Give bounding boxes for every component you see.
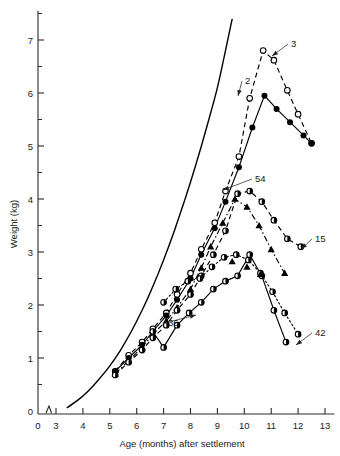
annotation-arrow-54: [223, 186, 229, 190]
data-point-series-3: [271, 57, 277, 63]
chart-canvas: 034567891011121301234567 3254153642 Age …: [0, 0, 340, 456]
y-tick-label: 7: [28, 35, 33, 46]
data-point-series-3: [285, 88, 291, 94]
data-point-series-36: [235, 273, 241, 279]
data-point-series-36: [247, 252, 253, 258]
annotation-arrow-36: [190, 314, 196, 318]
data-point-series-3: [236, 154, 242, 160]
series-line-series-3: [115, 51, 311, 372]
x-tick-label: 5: [107, 420, 112, 431]
series-label-15: 15: [315, 233, 326, 244]
series-line-series-36: [153, 255, 286, 348]
series-line-reference-growth-curve: [67, 19, 232, 408]
data-point-series-2: [300, 132, 306, 138]
x-tick-label: 10: [239, 420, 250, 431]
data-point-series-15: [211, 252, 217, 258]
data-point-series-3: [247, 96, 253, 102]
y-tick-label: 5: [28, 141, 33, 152]
annotation-arrow-42: [296, 340, 302, 345]
data-point-series-42: [173, 286, 179, 292]
y-tick-label: 3: [28, 247, 33, 258]
data-point-series-54: [187, 286, 194, 292]
data-point-series-2: [198, 252, 204, 258]
x-axis-title: Age (months) after settlement: [119, 438, 244, 449]
data-point-series-2: [222, 199, 228, 205]
y-tick-label: 6: [28, 88, 33, 99]
curves-layer: [67, 19, 312, 408]
data-point-series-42: [246, 257, 252, 263]
data-point-series-42: [209, 264, 215, 270]
series-label-2: 2: [245, 75, 250, 86]
data-point-series-3: [260, 48, 266, 54]
series-label-3: 3: [291, 38, 296, 49]
axes-layer: 034567891011121301234567: [28, 11, 335, 431]
data-point-series-36: [271, 308, 277, 314]
data-point-series-2: [249, 124, 255, 130]
data-point-series-42: [295, 331, 301, 337]
data-point-series-54: [255, 222, 262, 228]
x-tick-label: 3: [53, 420, 58, 431]
x-tick-label: 0: [35, 420, 40, 431]
y-tick-label: 2: [28, 300, 33, 311]
data-point-series-15: [126, 359, 132, 365]
data-point-series-15: [112, 372, 118, 378]
data-point-series-42: [197, 276, 203, 282]
data-point-series-3: [174, 292, 180, 298]
data-point-series-15: [247, 188, 253, 194]
x-tick-label: 13: [320, 420, 331, 431]
data-point-series-2: [261, 93, 267, 99]
data-point-series-36: [223, 278, 229, 284]
data-point-series-2: [212, 225, 218, 231]
data-point-series-15: [150, 335, 156, 341]
data-point-series-15: [174, 308, 180, 314]
data-point-series-lower-triangle-set: [229, 258, 236, 264]
y-tick-label: 1: [28, 353, 33, 364]
x-tick-label: 7: [161, 420, 166, 431]
data-point-series-54: [207, 243, 214, 249]
data-point-series-54: [198, 264, 205, 270]
annotation-arrow-2: [237, 90, 241, 96]
data-point-series-36: [211, 286, 217, 292]
data-point-series-54: [219, 219, 226, 225]
data-point-series-42: [161, 300, 167, 306]
series-label-54: 54: [255, 173, 266, 184]
series-line-series-2: [115, 96, 311, 372]
data-point-series-2: [174, 297, 180, 303]
data-point-series-3: [212, 220, 218, 226]
data-point-series-15: [139, 347, 145, 353]
x-tick-label: 8: [188, 420, 193, 431]
axis-break-marker: [46, 406, 52, 413]
markers-layer: [112, 48, 315, 378]
data-point-series-3: [188, 270, 194, 276]
x-tick-label: 9: [215, 420, 220, 431]
data-point-series-42: [233, 252, 239, 258]
data-point-series-15: [285, 236, 291, 242]
data-point-series-36: [283, 339, 289, 345]
data-point-series-2: [236, 164, 242, 170]
data-point-series-15: [271, 217, 277, 223]
data-point-series-42: [221, 254, 227, 260]
series-label-36: 36: [168, 317, 179, 328]
data-point-series-15: [188, 292, 194, 298]
data-point-series-3: [198, 247, 204, 253]
data-point-series-54: [281, 270, 288, 276]
growth-chart: 034567891011121301234567 3254153642 Age …: [0, 0, 340, 456]
data-point-series-42: [282, 310, 288, 316]
x-tick-label: 4: [80, 420, 85, 431]
data-point-series-3: [295, 111, 301, 117]
data-point-series-42: [185, 278, 191, 284]
data-point-series-36: [161, 345, 167, 351]
data-point-series-54: [268, 246, 275, 252]
y-tick-label: 0: [28, 406, 33, 417]
data-point-series-54: [243, 203, 250, 209]
x-tick-label: 6: [134, 420, 139, 431]
data-point-series-36: [198, 300, 204, 306]
data-point-series-2: [274, 106, 280, 112]
data-point-series-42: [270, 289, 276, 295]
y-tick-label: 4: [28, 194, 33, 205]
data-point-series-15: [223, 228, 229, 234]
x-tick-label: 11: [266, 420, 276, 431]
x-tick-label: 12: [293, 420, 304, 431]
data-point-series-15: [259, 199, 265, 205]
y-axis-title: Weight (kg): [8, 200, 19, 248]
